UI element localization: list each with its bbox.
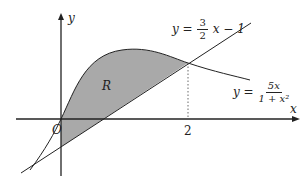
- x-tick-label: 2: [184, 125, 192, 137]
- y-axis-arrow-icon: [58, 13, 64, 20]
- line-eq-rest: x − 1: [213, 22, 245, 36]
- curve-eq-den: 1 + x²: [258, 93, 289, 104]
- line-eq-lhs: y =: [172, 22, 193, 36]
- line-equation-label: y = 32 x − 1: [172, 18, 245, 41]
- shaded-region-r: [61, 49, 188, 147]
- origin-label: O: [52, 124, 62, 136]
- line-eq-den: 2: [199, 30, 205, 41]
- line-eq-num: 3: [197, 18, 207, 30]
- curve-equation-label: y = 5x1 + x²: [233, 81, 290, 104]
- figure: y x O 2 R y = 32 x − 1 y = 5x1 + x²: [0, 0, 307, 179]
- curve-eq-lhs: y =: [233, 85, 254, 99]
- line-graph: [21, 23, 251, 173]
- region-label: R: [102, 80, 111, 92]
- y-axis-label: y: [68, 12, 75, 24]
- x-axis-arrow-icon: [292, 116, 300, 122]
- x-axis-label: x: [290, 103, 297, 115]
- curve-eq-num: 5x: [266, 81, 282, 93]
